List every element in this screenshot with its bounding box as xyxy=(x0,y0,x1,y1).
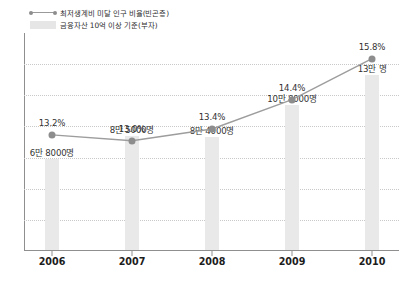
line-value-label: 13.4% xyxy=(199,112,225,122)
chart-legend: 최저생계비 미달 인구 비율(빈곤층) 금융자산 10억 이상 기준(부자) xyxy=(30,7,169,30)
line-series-path xyxy=(24,33,399,251)
x-axis-label: 2007 xyxy=(119,256,146,267)
line-marker xyxy=(209,126,216,133)
line-marker-key-icon xyxy=(30,8,56,17)
x-axis-label: 2009 xyxy=(279,256,306,267)
line-value-label: 14.4% xyxy=(279,83,305,93)
line-marker xyxy=(369,55,376,62)
x-axis-label: 2010 xyxy=(359,256,386,267)
legend-label-wealthy-count: 금융자산 10억 이상 기준(부자) xyxy=(60,19,157,30)
x-axis-label: 2006 xyxy=(39,256,66,267)
line-marker xyxy=(129,137,136,144)
line-value-label: 13.0% xyxy=(119,124,145,134)
bar-swatch-key-icon xyxy=(30,20,56,29)
line-value-label: 15.8% xyxy=(359,42,385,52)
line-value-label: 13.2% xyxy=(39,118,65,128)
legend-item-poverty-rate: 최저생계비 미달 인구 비율(빈곤층) xyxy=(30,7,169,18)
line-marker xyxy=(289,96,296,103)
legend-label-poverty-rate: 최저생계비 미달 인구 비율(빈곤층) xyxy=(60,7,169,18)
plot-area: 6만 8000명8만 5000명8만 4000명10만 8000명13만 명 1… xyxy=(24,33,399,251)
chart-container: 최저생계비 미달 인구 비율(빈곤층) 금융자산 10억 이상 기준(부자) 6… xyxy=(0,0,413,284)
line-marker xyxy=(49,131,56,138)
x-axis-label: 2008 xyxy=(199,256,226,267)
legend-item-wealthy-count: 금융자산 10억 이상 기준(부자) xyxy=(30,19,169,30)
